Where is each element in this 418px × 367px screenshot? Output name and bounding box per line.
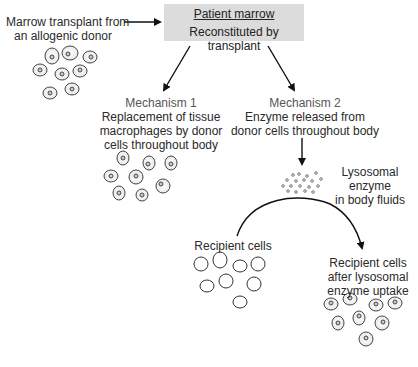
recipient-after-line3: enzyme uptake: [320, 284, 416, 298]
recipient-cells-icon: [194, 252, 265, 308]
mechanism1-line3: cells throughout body: [96, 138, 226, 152]
patient-marrow-title: Patient marrow: [164, 7, 304, 21]
enzyme-line2: enzyme: [326, 179, 414, 193]
enzyme-label: Lysosomal enzyme in body fluids: [326, 165, 414, 207]
donor-label-line2: an allogenic donor: [6, 29, 120, 43]
recipient-after-line1: Recipient cells: [320, 256, 416, 270]
enzyme-dots-icon: [282, 172, 323, 194]
enzyme-line3: in body fluids: [326, 193, 414, 207]
recipient-after-line2: after lysosomal: [320, 270, 416, 284]
recipient-label: Recipient cells: [188, 239, 278, 253]
mechanism2-title: Mechanism 2: [230, 96, 380, 110]
recipient-label-text: Recipient cells: [188, 239, 278, 253]
donor-cells-icon: [33, 46, 97, 99]
mechanism1-line2: macrophages by donor: [96, 124, 226, 138]
donor-label: Marrow transplant from an allogenic dono…: [6, 15, 120, 43]
mechanism2-line2: donor cells throughout body: [230, 124, 380, 138]
enzyme-line1: Lysosomal: [326, 165, 414, 179]
mechanism1-line1: Replacement of tissue: [96, 110, 226, 124]
mechanism1-title: Mechanism 1: [96, 96, 226, 110]
patient-marrow-box: Patient marrow Reconstituted by transpla…: [164, 4, 304, 41]
mechanism2-label: Mechanism 2 Enzyme released from donor c…: [230, 96, 380, 138]
donor-label-line1: Marrow transplant from: [6, 15, 120, 29]
patient-marrow-subtitle: Reconstituted by transplant: [164, 25, 304, 53]
recipient-after-cells-icon: [324, 293, 402, 346]
mechanism1-cells-icon: [104, 151, 177, 201]
mechanism1-label: Mechanism 1 Replacement of tissue macrop…: [96, 96, 226, 152]
recipient-after-label: Recipient cells after lysosomal enzyme u…: [320, 256, 416, 298]
mechanism2-line1: Enzyme released from: [230, 110, 380, 124]
